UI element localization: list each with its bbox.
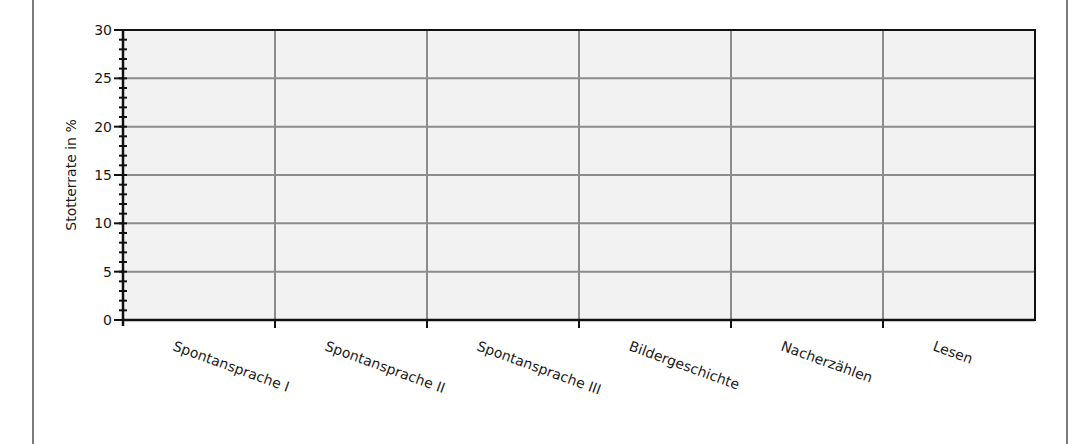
y-tick-label: 30 [94,22,112,38]
y-tick-label: 20 [94,119,112,135]
chart: 051015202530 Spontansprache ISpontanspra… [0,0,1090,444]
x-tick-label: Lesen [931,338,975,367]
x-tick-label: Bildergeschichte [627,338,742,393]
x-tick-label: Spontansprache II [323,338,447,396]
x-tick-label: Spontansprache III [475,338,603,398]
y-tick-label: 10 [94,215,112,231]
y-axis-label: Stotterrate in % [63,119,79,230]
y-tick-label: 0 [103,312,112,328]
x-tick-label: Nacherzählen [779,338,875,386]
y-axis: 051015202530 [94,22,127,328]
y-tick-label: 25 [94,70,112,86]
y-tick-label: 5 [103,264,112,280]
plot-area [123,30,1035,320]
y-tick-label: 15 [94,167,112,183]
x-axis: Spontansprache ISpontansprache IISpontan… [123,320,1035,398]
x-tick-label: Spontansprache I [171,338,292,395]
